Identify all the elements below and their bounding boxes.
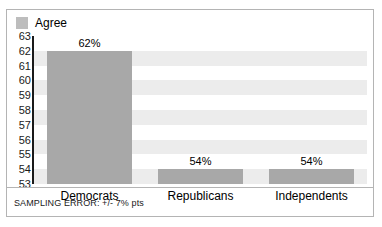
y-axis-tick-56: 56 xyxy=(7,134,31,145)
bar-democrats xyxy=(47,51,132,184)
y-axis-tick-63: 63 xyxy=(7,31,31,42)
bar-republicans xyxy=(158,169,243,184)
chart-container: Agree 6362616059585756555453 62%54%54% D… xyxy=(6,9,374,217)
y-axis-tick-61: 61 xyxy=(7,60,31,71)
footer-divider xyxy=(7,187,373,188)
y-axis-tick-62: 62 xyxy=(7,45,31,56)
legend-label-agree: Agree xyxy=(35,17,67,29)
y-axis-tick-55: 55 xyxy=(7,149,31,160)
category-label-republicans: Republicans xyxy=(145,190,256,202)
y-axis-tick-54: 54 xyxy=(7,164,31,175)
plot-wrapper: 6362616059585756555453 62%54%54% xyxy=(7,36,373,190)
sampling-error-note: SAMPLING ERROR: +/- 7% pts xyxy=(14,199,144,208)
y-axis-tick-labels: 6362616059585756555453 xyxy=(7,36,31,190)
y-axis-tick-58: 58 xyxy=(7,105,31,116)
y-axis-tick-59: 59 xyxy=(7,90,31,101)
bar-value-label-independents: 54% xyxy=(282,156,342,167)
bar-value-label-democrats: 62% xyxy=(60,38,120,49)
y-axis-tick-57: 57 xyxy=(7,119,31,130)
bar-value-label-republicans: 54% xyxy=(171,156,231,167)
plot-area: 62%54%54% xyxy=(34,36,367,184)
y-axis-tick-60: 60 xyxy=(7,75,31,86)
bar-independents xyxy=(269,169,354,184)
category-label-independents: Independents xyxy=(256,190,367,202)
legend-swatch-agree xyxy=(16,17,28,29)
